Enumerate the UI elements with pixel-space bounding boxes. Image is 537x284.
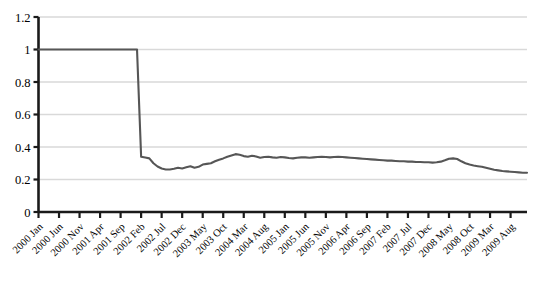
- line-chart-plot: 1.210.80.60.40.20: [0, 0, 537, 284]
- chart-container: 1.210.80.60.40.20 2000 Jan2000 Jun2000 N…: [0, 0, 537, 284]
- y-axis-tick-label: 1: [24, 43, 30, 57]
- y-axis-tick-label: 0: [24, 206, 30, 220]
- y-axis-tick-label: 0.4: [15, 141, 31, 155]
- y-axis-tick-label: 1.2: [15, 11, 31, 25]
- y-axis-tick-label: 0.2: [15, 173, 31, 187]
- y-axis-tick-label: 0.8: [15, 76, 31, 90]
- data-series-line: [39, 50, 528, 173]
- y-axis-tick-label: 0.6: [15, 108, 31, 122]
